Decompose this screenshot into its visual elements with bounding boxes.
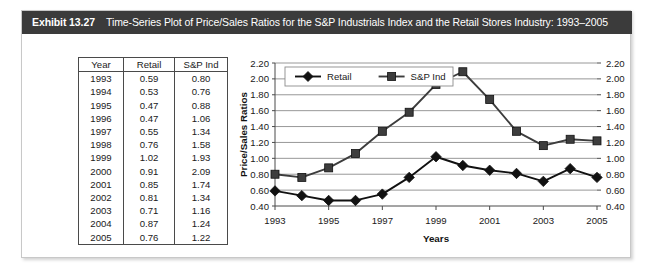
x-axis-title: Years — [423, 233, 450, 244]
table-row: 19960.471.06 — [79, 112, 228, 125]
y-axis-label-right: 1.20 — [606, 137, 625, 148]
y-axis-label-left: 2.00 — [250, 73, 269, 84]
y-axis-label-left: 2.20 — [250, 58, 269, 69]
chart-svg: 0.400.400.600.600.800.801.001.001.201.20… — [237, 51, 629, 251]
cell-sp-ind: 1.93 — [175, 151, 228, 164]
y-axis-label-right: 0.60 — [606, 185, 625, 196]
cell-sp-ind: 1.16 — [175, 204, 228, 217]
marker-square — [566, 135, 574, 143]
table-row: 20010.851.74 — [79, 178, 228, 191]
column-header-retail: Retail — [124, 58, 175, 72]
cell-year: 1996 — [79, 112, 124, 125]
cell-sp-ind: 1.22 — [175, 231, 228, 245]
y-axis-label-right: 2.20 — [606, 58, 625, 69]
cell-sp-ind: 1.58 — [175, 138, 228, 151]
marker-square — [513, 127, 521, 135]
cell-sp-ind: 0.76 — [175, 85, 228, 98]
marker-diamond — [270, 186, 280, 196]
marker-square — [378, 127, 386, 135]
table-row: 19940.530.76 — [79, 85, 228, 98]
y-axis-label-right: 2.00 — [606, 73, 625, 84]
y-axis-label-left: 1.80 — [250, 89, 269, 100]
cell-retail: 0.53 — [124, 85, 175, 98]
table-row: 19950.470.88 — [79, 99, 228, 112]
price-sales-ratio-chart: 0.400.400.600.600.800.801.001.001.201.20… — [237, 51, 629, 251]
y-axis-title: Price/Sales Ratios — [238, 91, 249, 177]
table-row: 19980.761.58 — [79, 138, 228, 151]
marker-square — [352, 150, 360, 158]
cell-year: 1997 — [79, 125, 124, 138]
marker-square — [298, 173, 306, 181]
cell-sp-ind: 1.34 — [175, 191, 228, 204]
column-header-year: Year — [79, 58, 124, 72]
marker-diamond — [297, 190, 307, 200]
table-row: 19930.590.80 — [79, 72, 228, 86]
marker-diamond — [458, 160, 468, 170]
cell-year: 1999 — [79, 151, 124, 164]
cell-sp-ind: 1.34 — [175, 125, 228, 138]
x-axis-label: 2005 — [586, 215, 607, 226]
y-axis-label-left: 0.40 — [250, 201, 269, 212]
table-row: 20020.811.34 — [79, 191, 228, 204]
cell-retail: 1.02 — [124, 151, 175, 164]
y-axis-label-left: 1.60 — [250, 105, 269, 116]
cell-sp-ind: 1.24 — [175, 217, 228, 230]
cell-sp-ind: 1.06 — [175, 112, 228, 125]
exhibit-caption: Time-Series Plot of Price/Sales Ratios f… — [106, 16, 608, 28]
y-axis-label-left: 1.40 — [250, 121, 269, 132]
table-row: 20000.912.09 — [79, 165, 228, 178]
legend-label-s-p-ind: S&P Ind — [411, 71, 446, 82]
marker-diamond — [323, 195, 333, 205]
cell-year: 2001 — [79, 178, 124, 191]
marker-square — [325, 164, 333, 172]
marker-diamond — [511, 168, 521, 178]
cell-year: 1994 — [79, 85, 124, 98]
x-axis-label: 1999 — [425, 215, 446, 226]
cell-sp-ind: 0.80 — [175, 72, 228, 86]
exhibit-header-text: Exhibit 13.27 Time-Series Plot of Price/… — [32, 16, 608, 28]
y-axis-label-right: 1.80 — [606, 89, 625, 100]
cell-sp-ind: 0.88 — [175, 99, 228, 112]
cell-retail: 0.76 — [124, 138, 175, 151]
cell-retail: 0.47 — [124, 99, 175, 112]
marker-square — [593, 137, 601, 145]
y-axis-label-left: 0.60 — [250, 185, 269, 196]
table-row: 19991.021.93 — [79, 151, 228, 164]
cell-year: 2002 — [79, 191, 124, 204]
cell-retail: 0.81 — [124, 191, 175, 204]
marker-square — [459, 68, 467, 76]
cell-retail: 0.55 — [124, 125, 175, 138]
y-axis-label-right: 0.40 — [606, 201, 625, 212]
cell-year: 1995 — [79, 99, 124, 112]
exhibit-label: Exhibit 13.27 — [32, 16, 95, 28]
table-row: 20030.711.16 — [79, 204, 228, 217]
table-header: Year Retail S&P Ind — [79, 58, 228, 72]
cell-sp-ind: 2.09 — [175, 165, 228, 178]
y-axis-label-right: 1.60 — [606, 105, 625, 116]
legend-label-retail: Retail — [327, 71, 352, 82]
marker-square — [405, 108, 413, 116]
cell-retail: 0.59 — [124, 72, 175, 86]
cell-retail: 0.71 — [124, 204, 175, 217]
cell-retail: 0.87 — [124, 217, 175, 230]
cell-year: 2005 — [79, 231, 124, 245]
cell-retail: 0.76 — [124, 231, 175, 245]
marker-diamond — [565, 163, 575, 173]
marker-diamond — [538, 176, 548, 186]
x-axis-label: 1997 — [372, 215, 393, 226]
y-axis-label-left: 1.00 — [250, 153, 269, 164]
cell-retail: 0.47 — [124, 112, 175, 125]
table-header-row: Year Retail S&P Ind — [79, 58, 228, 72]
cell-retail: 0.91 — [124, 165, 175, 178]
cell-year: 1993 — [79, 72, 124, 86]
price-sales-ratio-table: Year Retail S&P Ind 19930.590.8019940.53… — [78, 57, 228, 245]
table-row: 19970.551.34 — [79, 125, 228, 138]
y-axis-label-right: 1.40 — [606, 121, 625, 132]
marker-diamond — [350, 195, 360, 205]
series-line-retail — [275, 157, 597, 201]
table-row: 20040.871.24 — [79, 217, 228, 230]
cell-sp-ind: 1.74 — [175, 178, 228, 191]
table-row: 20050.761.22 — [79, 231, 228, 245]
x-axis-label: 1993 — [264, 215, 285, 226]
cell-year: 2003 — [79, 204, 124, 217]
